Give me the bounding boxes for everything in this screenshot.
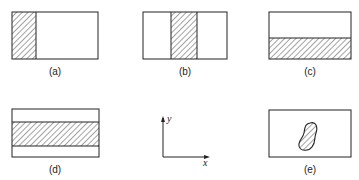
panel-a-label: (a) [49, 66, 61, 77]
x-axis-label: x [202, 157, 208, 168]
figure-canvas: (a) (b) (c) (d) y x (e) [0, 0, 359, 180]
y-axis-label: y [166, 113, 172, 124]
y-arrow-icon [161, 116, 165, 122]
hatched-region [12, 122, 99, 146]
panel-d: (d) [12, 109, 99, 175]
hatched-region [171, 12, 197, 59]
panel-d-label: (d) [49, 164, 61, 175]
panel-b-label: (b) [179, 66, 191, 77]
coordinate-axes: y x [161, 113, 210, 168]
panel-b: (b) [143, 12, 227, 77]
hatched-region [269, 38, 351, 59]
panel-e-label: (e) [304, 164, 316, 175]
panel-c: (c) [269, 12, 351, 77]
panel-c-label: (c) [304, 66, 316, 77]
panel-a: (a) [12, 12, 98, 77]
panel-e: (e) [269, 110, 351, 175]
hatched-region [12, 12, 36, 59]
hatched-blob [299, 123, 317, 151]
